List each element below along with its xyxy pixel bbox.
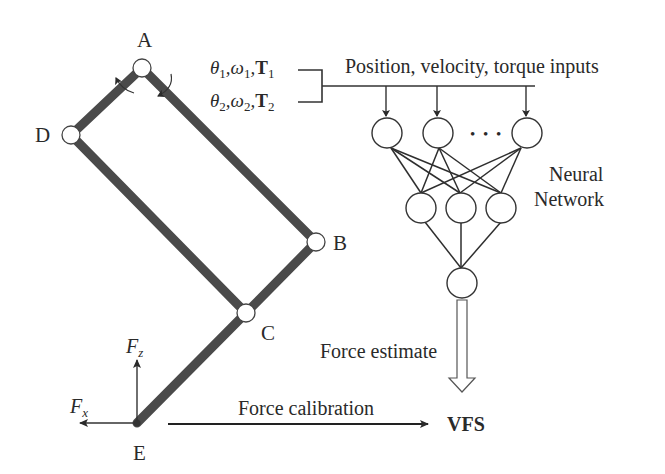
joint-label-A: A (137, 30, 152, 51)
joint-label-C: C (261, 323, 275, 344)
nn-hidden-node-3 (486, 193, 516, 223)
joint-D (62, 126, 80, 144)
nn-nodes (372, 118, 542, 298)
joint-label-E: E (133, 443, 146, 464)
nn-input-node-2 (423, 118, 453, 148)
force-estimate-arrow-icon (449, 300, 475, 392)
link-B-C (246, 242, 316, 313)
link-C-E (137, 313, 246, 423)
joint-A (133, 59, 151, 77)
link-A-D (71, 68, 142, 135)
joint-label-D: D (35, 125, 50, 146)
nn-label-line2: Network (534, 189, 604, 209)
joint-C (237, 304, 255, 322)
nn-output-node (447, 268, 477, 298)
input-vars-line2: θ2,ω2,T2 (210, 91, 274, 113)
nn-hidden-node-2 (446, 193, 476, 223)
nn-hidden-node-1 (406, 193, 436, 223)
joints (62, 59, 325, 322)
joint-B (307, 233, 325, 251)
linkage-bars (71, 68, 316, 423)
input-arrows (386, 86, 526, 116)
nn-ellipsis: • • • (470, 127, 503, 142)
nn-label-line1: Neural (549, 164, 603, 184)
input-vars-line1: θ1,ω1,T1 (210, 58, 274, 80)
inputs-caption: Position, velocity, torque inputs (345, 56, 599, 76)
joint-label-B: B (333, 233, 347, 254)
fx-label: Fx (70, 396, 88, 419)
nn-input-node-1 (372, 118, 402, 148)
nn-input-node-3 (512, 118, 542, 148)
vfs-label: VFS (447, 414, 485, 434)
force-estimate-label: Force estimate (320, 341, 437, 361)
force-calibration-label: Force calibration (238, 398, 374, 418)
link-D-C (71, 135, 246, 313)
fz-label: Fz (126, 336, 143, 359)
